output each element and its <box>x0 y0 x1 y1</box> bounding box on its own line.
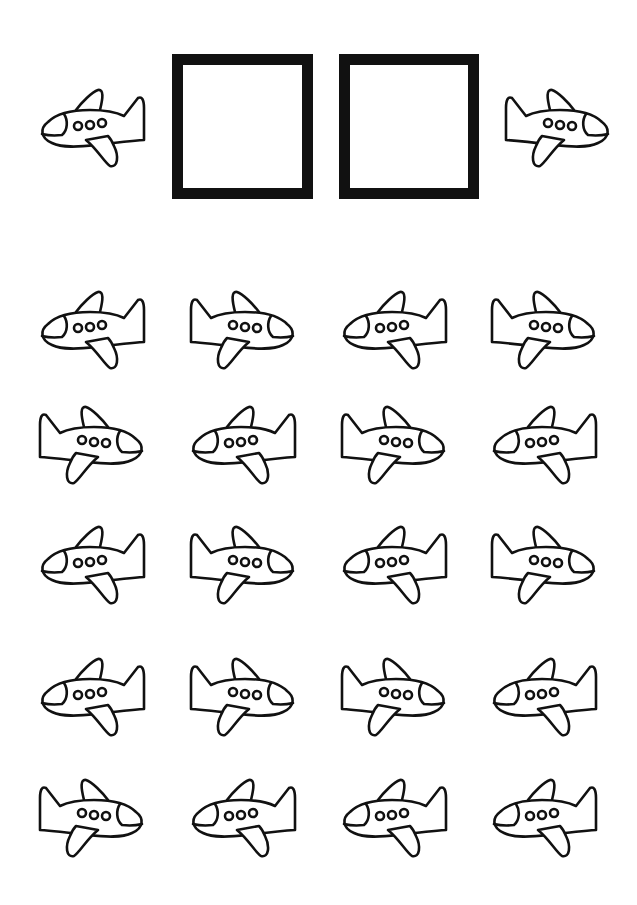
airplane-icon <box>490 525 598 605</box>
airplane-icon <box>189 525 297 605</box>
airplane-icon <box>340 525 448 605</box>
airplane-icon <box>340 778 448 858</box>
answer-box-1[interactable] <box>172 54 313 199</box>
answer-box-2[interactable] <box>339 54 479 199</box>
airplane-icon <box>189 778 297 858</box>
airplane-icon <box>504 88 612 168</box>
airplane-icon <box>490 778 598 858</box>
airplane-icon <box>490 657 598 737</box>
airplane-icon <box>189 290 297 370</box>
airplane-icon <box>38 657 146 737</box>
airplane-icon <box>189 657 297 737</box>
airplane-icon <box>38 290 146 370</box>
airplane-icon <box>340 290 448 370</box>
airplane-icon <box>340 405 448 485</box>
airplane-icon <box>490 290 598 370</box>
airplane-icon <box>38 525 146 605</box>
airplane-icon <box>340 657 448 737</box>
airplane-icon <box>490 405 598 485</box>
airplane-icon <box>189 405 297 485</box>
airplane-icon <box>38 778 146 858</box>
airplane-icon <box>38 88 146 168</box>
airplane-icon <box>38 405 146 485</box>
